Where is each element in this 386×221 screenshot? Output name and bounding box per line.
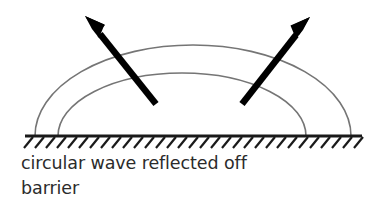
caption-line-2: barrier [21,178,79,198]
inner-wavefront-arc [58,73,306,136]
caption-line-1: circular wave reflected off [21,153,247,173]
right-reflection-arrow [242,17,310,104]
figure-caption: circular wave reflected offbarrier [21,151,351,201]
wave-reflection-figure: circular wave reflected offbarrier [0,0,386,221]
barrier-hatching [24,137,363,148]
